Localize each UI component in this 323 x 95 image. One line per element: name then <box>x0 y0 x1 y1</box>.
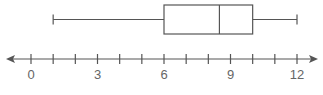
tick-label: 12 <box>290 67 304 82</box>
box-plot-chart: 036912 <box>0 0 323 95</box>
tick-label: 0 <box>27 67 34 82</box>
iqr-box <box>164 5 253 34</box>
box-plot <box>53 5 297 34</box>
tick-label: 3 <box>94 67 101 82</box>
tick-label: 9 <box>227 67 234 82</box>
tick-label: 6 <box>160 67 167 82</box>
axis-tick-labels: 036912 <box>27 67 304 82</box>
